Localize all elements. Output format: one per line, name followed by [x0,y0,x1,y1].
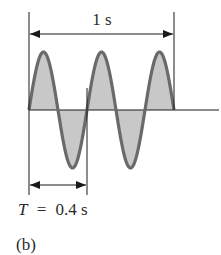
period-value: 0.4 s [56,200,88,219]
one-second-label: 1 s [92,10,111,29]
period-variable: T [18,200,29,219]
sine-wave-period-diagram: 1 s T = 0.4 s (b) [0,0,221,255]
period-label: T = 0.4 s [18,200,88,219]
figure-caption: (b) [16,235,36,254]
period-equals: = [37,200,47,219]
